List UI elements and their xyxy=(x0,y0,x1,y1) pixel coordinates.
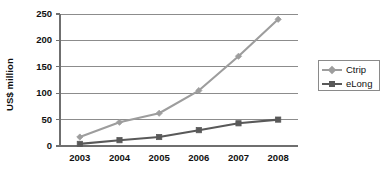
legend-swatch-elong-icon xyxy=(322,79,342,89)
legend-label-ctrip: Ctrip xyxy=(342,65,366,75)
legend-marker-square-icon xyxy=(329,81,335,87)
legend-label-elong: eLong xyxy=(342,79,372,89)
legend: Ctrip eLong xyxy=(318,60,380,91)
legend-item-elong[interactable]: eLong xyxy=(322,77,372,90)
legend-marker-diamond-icon xyxy=(328,65,336,73)
legend-swatch-ctrip-icon xyxy=(322,65,342,75)
line-chart: US$ million 050100150200250 200320042005… xyxy=(0,0,390,178)
legend-item-ctrip[interactable]: Ctrip xyxy=(322,63,366,76)
